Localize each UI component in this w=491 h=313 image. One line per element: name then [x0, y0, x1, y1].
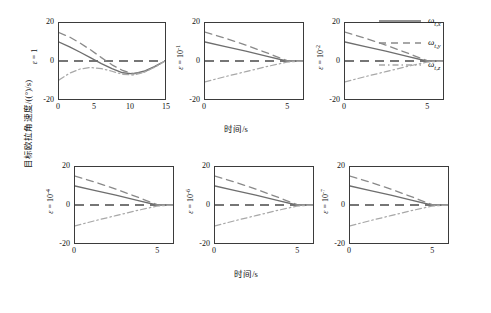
x-tick-5-panel2: 5: [280, 103, 294, 111]
x-tick-5-panel3: 5: [420, 103, 434, 111]
y-tick-y0: 0: [176, 57, 200, 65]
series-dashed-panel6: [350, 176, 448, 205]
series-solid-panel4: [75, 186, 173, 205]
x-tick-0-panel2: 0: [197, 103, 211, 111]
subplot-1: ε = 1200-20051015: [14, 8, 174, 118]
series-dashed-panel5: [215, 176, 313, 205]
series-dashed-panel2: [205, 32, 303, 61]
series-dashdot-panel6: [350, 205, 448, 226]
figure-canvas: 目标欧拉角速度/((°)/s) ε = 1200-20051015ε = 10-…: [0, 0, 491, 313]
x-tick-5-panel5: 5: [290, 247, 304, 255]
y-tick-labels-1: 200-20: [28, 8, 54, 118]
y-tick-y0: 0: [186, 201, 210, 209]
curves-6: [350, 167, 448, 243]
curves-2: [205, 23, 303, 99]
curves-4: [75, 167, 173, 243]
subplot-6: ε = 10-7200-2005: [305, 152, 465, 262]
series-dashdot-panel5: [215, 205, 313, 226]
x-axis-label-top: 时间/s: [160, 122, 312, 134]
series-dashed-panel4: [75, 176, 173, 205]
y-tick-y20: 20: [316, 18, 340, 26]
series-dashed-panel1: [59, 33, 165, 74]
x-tick-5-panel6: 5: [425, 247, 439, 255]
x-tick-0-panel1: 0: [51, 103, 65, 111]
series-solid-panel5: [215, 186, 313, 205]
series-solid-panel6: [350, 186, 448, 205]
x-tick-5-panel1: 5: [87, 103, 101, 111]
plot-area-1: [58, 22, 166, 100]
legend: ωt,xωt,yωt,z: [378, 14, 482, 76]
subplot-4: ε = 10-4200-2005: [30, 152, 190, 262]
x-tick-10-panel1: 10: [123, 103, 137, 111]
legend-swatch-solid: [378, 16, 422, 26]
subplot-2: ε = 10-1200-2005: [160, 8, 320, 118]
x-tick-0-panel3: 0: [337, 103, 351, 111]
legend-item-omega-t-y: ωt,y: [378, 36, 482, 50]
y-tick-labels-3: 200-20: [314, 8, 340, 118]
y-tick-y20: 20: [30, 18, 54, 26]
y-tick-labels-5: 200-20: [184, 152, 210, 262]
series-dashdot-panel2: [205, 61, 303, 82]
legend-item-omega-t-z: ωt,z: [378, 58, 482, 72]
y-tick-labels-6: 200-20: [319, 152, 345, 262]
x-axis-label-bottom: 时间/s: [170, 267, 322, 279]
legend-item-omega-t-x: ωt,x: [378, 14, 482, 28]
y-tick-y20: 20: [186, 162, 210, 170]
y-tick-labels-4: 200-20: [44, 152, 70, 262]
y-tick-y20: 20: [321, 162, 345, 170]
legend-label-omega-t-z: ωt,z: [428, 59, 440, 71]
plot-area-6: [349, 166, 449, 244]
plot-area-2: [204, 22, 304, 100]
series-dashdot-panel1: [59, 61, 165, 80]
curves-5: [215, 167, 313, 243]
legend-label-omega-t-y: ωt,y: [428, 37, 441, 49]
legend-swatch-dashdot: [378, 60, 422, 70]
y-tick-y0: 0: [46, 201, 70, 209]
series-dashdot-panel4: [75, 205, 173, 226]
y-tick-y20: 20: [176, 18, 200, 26]
legend-label-omega-t-x: ωt,x: [428, 15, 441, 27]
x-tick-5-panel4: 5: [150, 247, 164, 255]
legend-swatch-dashed: [378, 38, 422, 48]
y-tick-y0: 0: [30, 57, 54, 65]
x-tick-0-panel5: 0: [207, 247, 221, 255]
series-solid-panel2: [205, 42, 303, 61]
y-tick-y0: 0: [321, 201, 345, 209]
x-tick-0-panel4: 0: [67, 247, 81, 255]
y-tick-y0: 0: [316, 57, 340, 65]
curves-1: [59, 23, 165, 99]
x-tick-0-panel6: 0: [342, 247, 356, 255]
plot-area-5: [214, 166, 314, 244]
y-tick-labels-2: 200-20: [174, 8, 200, 118]
y-tick-y20: 20: [46, 162, 70, 170]
plot-area-4: [74, 166, 174, 244]
